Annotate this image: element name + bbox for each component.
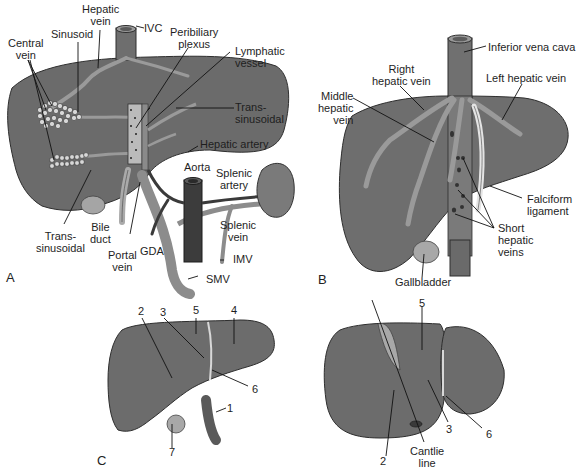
label-short-hepatic-veins: Short hepatic veins [498, 222, 533, 258]
label-imv: IMV [233, 253, 253, 265]
label-peribiliary-plexus: Peribiliary plexus [170, 26, 218, 50]
liver-anatomy-illustration [0, 0, 582, 473]
label-portal-vein: Portal vein [108, 249, 137, 273]
label-middle-hepatic-vein: Middle hepatic vein [318, 90, 353, 126]
segment-number: 5 [419, 297, 425, 309]
label-gda: GDA [140, 245, 164, 257]
segment-number: 5 [193, 304, 199, 316]
panel-c-left-drawing [108, 318, 274, 448]
label-falciform-ligament: Falciform ligament [527, 193, 572, 217]
segment-number: 2 [138, 305, 144, 317]
label-trans-sinusoidal-left: Trans- sinusoidal [36, 230, 85, 254]
label-inferior-vena-cava: Inferior vena cava [488, 41, 575, 53]
segment-number: 3 [160, 306, 166, 318]
segment-number: 6 [252, 383, 258, 395]
label-left-hepatic-vein: Left hepatic vein [486, 72, 566, 84]
segment-number: 2 [380, 455, 386, 467]
label-right-hepatic-vein: Right hepatic vein [372, 63, 431, 87]
panel-c-right-drawing [324, 300, 504, 456]
segment-number: 6 [486, 428, 492, 440]
label-ivc: IVC [144, 22, 162, 34]
label-trans-sinusoidal-right: Trans- sinusoidal [235, 101, 284, 125]
label-aorta: Aorta [184, 161, 210, 173]
label-splenic-vein: Splenic vein [220, 219, 256, 243]
label-cantlie-line: Cantlie line [410, 445, 444, 469]
label-lymphatic-vessel: Lymphatic vessel [235, 45, 285, 69]
label-central-vein: Central vein [8, 37, 43, 61]
label-gallbladder: Gallbladder [395, 276, 451, 288]
segment-number: 3 [446, 423, 452, 435]
panel-label-a: A [6, 270, 15, 285]
label-splenic-artery: Splenic artery [216, 167, 252, 191]
segment-number: 4 [231, 304, 237, 316]
label-bile-duct: Bile duct [90, 221, 111, 245]
panel-label-b: B [318, 272, 327, 287]
segment-number: 1 [227, 402, 233, 414]
panel-label-c: C [97, 453, 106, 468]
label-sinusoid: Sinusoid [51, 28, 93, 40]
label-smv: SMV [206, 273, 230, 285]
label-hepatic-artery: Hepatic artery [200, 138, 268, 150]
label-hepatic-vein: Hepatic vein [82, 3, 119, 27]
segment-number: 7 [169, 446, 175, 458]
